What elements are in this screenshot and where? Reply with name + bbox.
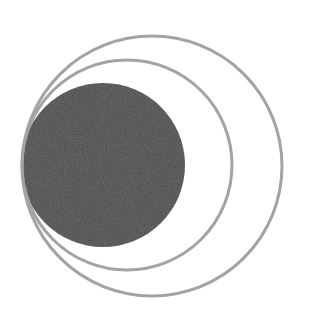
tangent-circles-diagram bbox=[0, 0, 310, 326]
filled-disk bbox=[21, 83, 185, 247]
